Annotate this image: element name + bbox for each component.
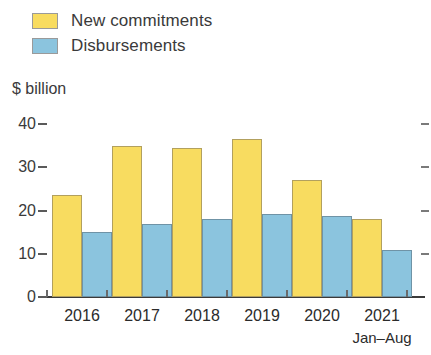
y-tick-label-20: 20 [18,202,36,220]
y-tick-mark-10 [38,253,47,255]
bar-chart-plot-area: 010203040 201620172018201920202021Jan–Au… [0,0,431,355]
bar-2018-disbursements [202,219,232,297]
right-tick-mark-40 [421,123,429,125]
x-tick-mark-2018 [166,290,168,297]
right-tick-mark-30 [421,166,429,168]
x-axis-label-2021: 2021 [342,307,422,325]
right-tick-mark-10 [421,253,429,255]
bar-2017-disbursements [142,224,172,297]
right-tick-mark-20 [421,210,429,212]
bar-2021-new-commitments [352,219,382,297]
y-tick-label-40: 40 [18,115,36,133]
x-axis-sublabel-2021: Jan–Aug [342,329,422,346]
y-tick-mark-40 [38,123,47,125]
x-tick-mark-2020 [286,290,288,297]
x-tick-mark-2021 [346,290,348,297]
bar-2016-disbursements [82,232,112,297]
bar-2017-new-commitments [112,146,142,297]
bar-2018-new-commitments [172,148,202,297]
y-tick-label-10: 10 [18,245,36,263]
x-tick-mark-2017 [106,290,108,297]
y-tick-mark-20 [38,210,47,212]
bar-2020-disbursements [322,216,352,297]
bar-2016-new-commitments [52,195,82,297]
bar-2019-new-commitments [232,139,262,297]
x-tick-mark-2019 [226,290,228,297]
x-tick-mark-2016 [46,290,48,297]
y-tick-label-0: 0 [27,288,36,306]
y-tick-label-30: 30 [18,158,36,176]
y-tick-mark-30 [38,166,47,168]
bar-2020-new-commitments [292,180,322,297]
bar-2019-disbursements [262,214,292,297]
x-tick-mark-end [406,290,408,297]
